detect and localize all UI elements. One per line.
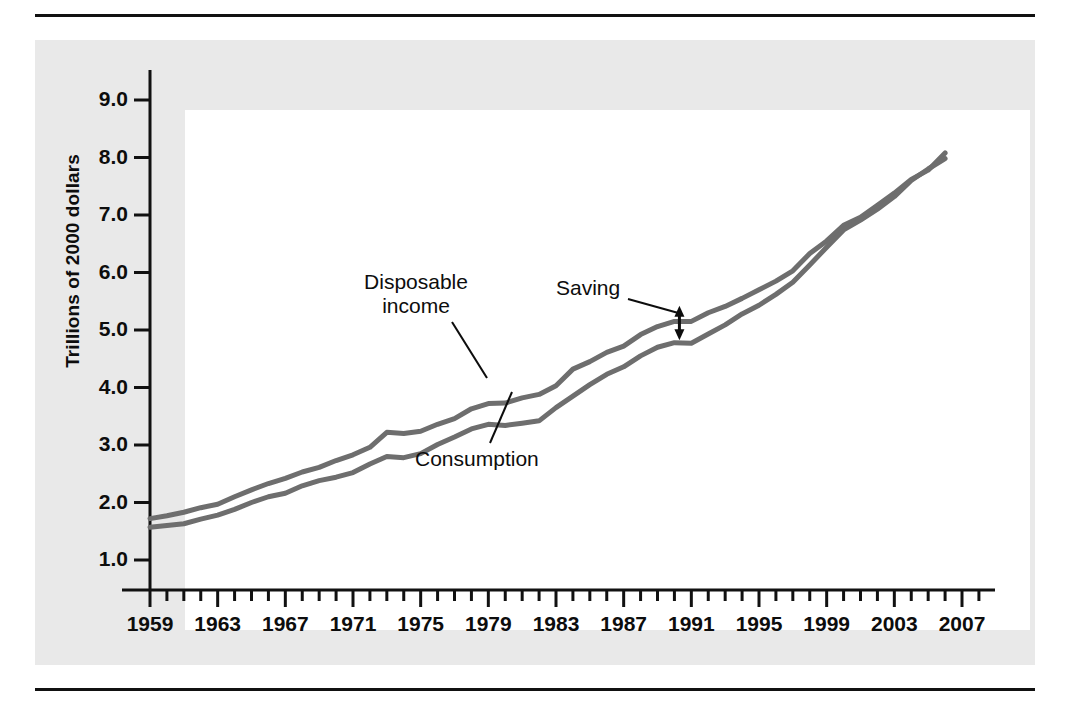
chart-svg — [0, 0, 1069, 713]
figure-container: Trillions of 2000 dollars 9.08.07.06.05.… — [0, 0, 1069, 713]
annotation-consumption: Consumption — [415, 447, 539, 471]
annotation-saving: Saving — [556, 276, 620, 300]
annotation-disposable-income: Disposableincome — [336, 270, 496, 317]
